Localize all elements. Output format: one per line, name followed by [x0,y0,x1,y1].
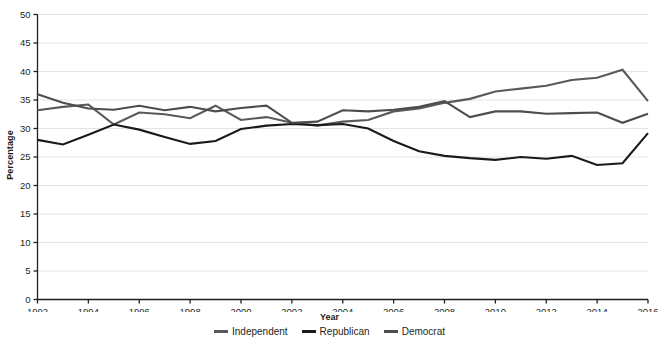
series-line-independent [38,70,649,126]
gridlines [38,15,649,272]
y-tick-label: 50 [20,9,31,20]
y-tick-labels: 05101520253035404550 [20,9,31,305]
y-tick-label: 40 [20,66,31,77]
x-axis-title: Year [0,312,659,322]
y-tick-label: 45 [20,37,31,48]
chart-canvas: 05101520253035404550 1992199419961998200… [0,0,659,312]
legend-item-republican[interactable]: Republican [302,326,370,337]
legend-label: Republican [320,326,370,337]
y-tick-label: 25 [20,151,31,162]
line-chart: Percentage 05101520253035404550 19921994… [0,0,659,348]
series-line-republican [38,124,649,165]
plot-area: 05101520253035404550 1992199419961998200… [0,0,659,312]
chart-legend: IndependentRepublicanDemocrat [0,326,659,337]
y-tick-label: 30 [20,123,31,134]
y-tick-label: 20 [20,180,31,191]
data-series-group [38,70,649,165]
legend-label: Democrat [402,326,445,337]
legend-swatch-icon [384,330,398,333]
y-tick-label: 0 [25,294,30,305]
y-tick-label: 10 [20,237,31,248]
series-line-democrat [38,94,649,123]
legend-item-independent[interactable]: Independent [214,326,288,337]
legend-swatch-icon [214,330,228,333]
y-tick-label: 5 [25,265,30,276]
y-axis [34,15,38,300]
legend-label: Independent [232,326,288,337]
x-axis [38,300,649,304]
legend-item-democrat[interactable]: Democrat [384,326,445,337]
legend-swatch-icon [302,330,316,333]
y-tick-label: 35 [20,94,31,105]
y-tick-label: 15 [20,208,31,219]
